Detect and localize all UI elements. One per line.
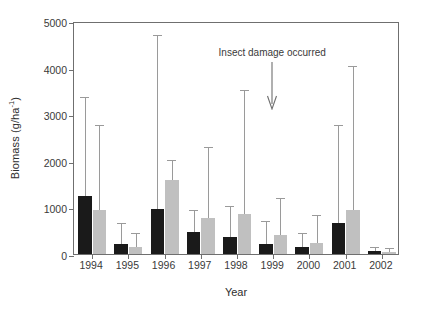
y-axis-tick [69, 116, 74, 117]
bar-1999-series-gray [274, 235, 288, 254]
error-bar-stem-2000-series-gray [317, 216, 318, 243]
bar-2002-series-black [368, 251, 382, 254]
x-axis-tick-label: 2001 [333, 260, 356, 271]
error-bar-cap-1995-series-gray [131, 233, 140, 234]
error-bar-stem-2002-series-gray [389, 249, 390, 252]
x-axis-title: Year [225, 286, 247, 298]
y-axis-title-exponent: -1 [7, 101, 16, 108]
error-bar-cap-1997-series-black [189, 210, 198, 211]
y-axis-tick [69, 209, 74, 210]
x-axis-tick-label: 2002 [369, 260, 392, 271]
bar-1995-series-black [114, 244, 128, 254]
bar-2002-series-gray [382, 252, 396, 254]
error-bar-cap-1997-series-gray [204, 147, 213, 148]
y-axis-tick-label: 0 [61, 251, 67, 262]
y-axis-tick [69, 163, 74, 164]
bar-2000-series-black [295, 247, 309, 254]
error-bar-cap-1999-series-gray [276, 198, 285, 199]
y-axis-tick-label: 1000 [44, 204, 67, 215]
bar-1998-series-gray [238, 214, 252, 254]
error-bar-stem-1994-series-gray [99, 126, 100, 209]
error-bar-stem-1995-series-black [121, 224, 122, 244]
x-axis-tick-label: 1999 [261, 260, 284, 271]
error-bar-cap-1999-series-black [261, 221, 270, 222]
error-bar-cap-2001-series-gray [348, 66, 357, 67]
x-axis-tick-label: 1998 [224, 260, 247, 271]
y-axis-title-main: Biomass (g/ha [9, 108, 21, 180]
bar-2001-series-black [332, 223, 346, 254]
x-axis-tick-label: 1995 [116, 260, 139, 271]
error-bar-cap-1998-series-black [225, 206, 234, 207]
chart-figure: Biomass (g/ha-1) Year Insect damage occu… [0, 0, 431, 317]
error-bar-stem-1995-series-gray [136, 234, 137, 247]
bar-1996-series-gray [165, 180, 179, 254]
error-bar-stem-1996-series-black [157, 36, 158, 209]
error-bar-cap-2000-series-gray [312, 215, 321, 216]
y-axis-tick [69, 70, 74, 71]
error-bar-stem-1998-series-black [230, 207, 231, 237]
error-bar-stem-1997-series-black [194, 211, 195, 232]
error-bar-stem-2001-series-black [338, 126, 339, 223]
y-axis-title-close: ) [9, 97, 21, 101]
error-bar-cap-2000-series-black [298, 233, 307, 234]
plot-area: 010002000300040005000 [73, 22, 399, 255]
y-axis-tick-label: 3000 [44, 111, 67, 122]
bar-1997-series-gray [201, 218, 215, 254]
error-bar-cap-1995-series-black [117, 223, 126, 224]
bar-1995-series-gray [129, 247, 143, 254]
error-bar-cap-1994-series-black [80, 97, 89, 98]
error-bar-stem-2002-series-black [375, 248, 376, 251]
y-axis-tick-label: 2000 [44, 158, 67, 169]
bar-1997-series-black [187, 232, 201, 254]
bar-1994-series-gray [93, 210, 107, 254]
y-axis-tick-label: 5000 [44, 18, 67, 29]
error-bar-stem-2001-series-gray [353, 67, 354, 210]
error-bar-cap-1996-series-black [153, 35, 162, 36]
bar-2001-series-gray [346, 210, 360, 254]
y-axis-tick-label: 4000 [44, 64, 67, 75]
error-bar-cap-1998-series-gray [240, 90, 249, 91]
error-bar-cap-1996-series-gray [167, 160, 176, 161]
y-axis-tick [69, 23, 74, 24]
error-bar-cap-2002-series-black [370, 247, 379, 248]
error-bar-cap-1994-series-gray [95, 125, 104, 126]
error-bar-cap-2002-series-gray [385, 248, 394, 249]
error-bar-stem-1998-series-gray [244, 91, 245, 214]
bar-1996-series-black [151, 209, 165, 254]
error-bar-stem-2000-series-black [302, 234, 303, 247]
x-axis-tick-label: 1997 [188, 260, 211, 271]
y-axis-title: Biomass (g/ha-1) [7, 97, 21, 179]
error-bar-stem-1999-series-black [266, 222, 267, 244]
bar-2000-series-gray [310, 243, 324, 254]
x-axis-tick-label: 1994 [79, 260, 102, 271]
bar-1998-series-black [223, 237, 237, 254]
bar-1994-series-black [78, 196, 92, 254]
x-axis-tick-label: 2000 [297, 260, 320, 271]
error-bar-cap-2001-series-black [334, 125, 343, 126]
error-bar-stem-1997-series-gray [208, 148, 209, 218]
error-bar-stem-1994-series-black [85, 98, 86, 196]
x-axis-tick-label: 1996 [152, 260, 175, 271]
error-bar-stem-1999-series-gray [280, 199, 281, 235]
bar-1999-series-black [259, 244, 273, 254]
y-axis-tick [69, 256, 74, 257]
error-bar-stem-1996-series-gray [172, 161, 173, 181]
